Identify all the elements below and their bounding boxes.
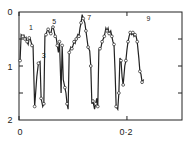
annotation-7: 7	[87, 14, 91, 21]
data-point	[47, 28, 50, 31]
annotation-5: 5	[52, 18, 56, 25]
data-point	[103, 35, 106, 38]
data-point	[92, 100, 95, 103]
axis-tick-labels: 0 1 2 0 0·2	[7, 7, 132, 137]
data-point	[78, 35, 81, 38]
data-point	[42, 102, 45, 105]
data-point	[49, 32, 52, 35]
data-point	[94, 102, 97, 105]
data-point	[31, 44, 34, 47]
annotation-1: 1	[29, 24, 33, 31]
data-point	[33, 105, 36, 108]
data-point	[106, 30, 109, 33]
data-point	[66, 102, 69, 105]
data-point	[96, 105, 99, 108]
data-point	[73, 40, 76, 43]
data-point	[127, 40, 130, 43]
chart: 0 1 2 0 0·2 1 3 5 7 9	[0, 0, 193, 146]
data-point	[108, 32, 111, 35]
data-point	[87, 46, 90, 49]
data-point	[113, 43, 116, 46]
y-tick-label-1: 1	[7, 62, 12, 72]
data-point	[101, 40, 104, 43]
data-point	[110, 35, 113, 38]
data-point	[120, 59, 123, 62]
data-point	[37, 62, 40, 65]
data-point	[28, 37, 31, 40]
data-point	[63, 86, 66, 89]
y-tick-label-0: 0	[7, 7, 12, 17]
data-point	[19, 59, 22, 62]
data-point	[117, 92, 120, 95]
data-point	[136, 40, 139, 43]
data-point	[56, 44, 59, 47]
data-point	[122, 84, 125, 87]
data-point	[99, 47, 102, 50]
data-point	[54, 35, 57, 38]
data-point	[134, 33, 137, 36]
data-point	[75, 38, 78, 41]
data-point	[85, 30, 88, 33]
data-point	[68, 51, 71, 54]
annotation-3: 3	[42, 52, 46, 59]
data-point	[21, 35, 24, 38]
x-tick-label-0: 0	[17, 127, 22, 137]
x-tick-label-1: 0·2	[119, 127, 132, 137]
data-point	[40, 97, 43, 100]
data-point	[82, 17, 85, 20]
data-point	[24, 38, 27, 41]
data-series	[19, 15, 144, 110]
data-point	[124, 59, 127, 62]
data-point	[89, 65, 92, 68]
data-point	[80, 21, 83, 24]
data-point	[61, 44, 64, 47]
y-tick-label-2: 2	[7, 115, 12, 125]
data-point	[141, 81, 144, 84]
data-point	[52, 26, 55, 29]
data-point	[58, 40, 61, 43]
data-point	[45, 33, 48, 36]
data-point	[70, 47, 73, 50]
data-point	[139, 70, 142, 73]
data-point	[115, 105, 118, 108]
annotation-9: 9	[147, 15, 151, 22]
data-point	[26, 40, 29, 43]
